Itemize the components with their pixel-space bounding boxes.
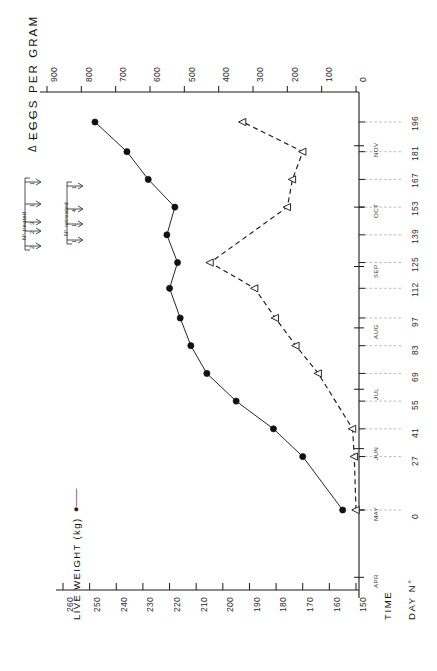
treated-count-1: 1 [30, 204, 35, 207]
weight-point [174, 259, 180, 265]
eggs-tick-900: 900 [50, 67, 59, 82]
eggs-point [239, 118, 246, 125]
day-tick-69: 69 [411, 372, 420, 382]
eggs-tick-marks [47, 86, 356, 92]
weight-tick-260: 260 [66, 597, 75, 612]
eggs-point [292, 342, 299, 349]
day-tick-0: 0 [411, 514, 420, 519]
month-tick-aug: AUG [373, 324, 379, 339]
treated-count-2: 3 [30, 222, 35, 225]
day-tick-139: 139 [411, 229, 420, 244]
month-tick-jun: JUN [373, 446, 379, 459]
eggs-point [348, 425, 355, 432]
weight-point [270, 426, 276, 432]
eggs-tick-200: 200 [291, 67, 300, 82]
eggs-tick-600: 600 [153, 67, 162, 82]
month-tick-apr: APR [373, 574, 379, 588]
weight-tick-marks [63, 583, 356, 590]
weight-point [145, 176, 151, 182]
weight-point [300, 453, 306, 459]
retreated-count-2: 1 [72, 224, 77, 227]
month-tick-sep: SEP [373, 264, 379, 278]
day-tick-181: 181 [411, 146, 420, 161]
eggs-point [206, 259, 213, 266]
retreated-label: N° retreated [64, 202, 70, 236]
weight-point [204, 370, 210, 376]
weight-point [340, 507, 346, 513]
weight-tick-250: 250 [93, 597, 102, 612]
eggs-tick-700: 700 [119, 67, 128, 82]
weight-tick-180: 180 [279, 597, 288, 612]
weight-tick-160: 160 [333, 597, 342, 612]
treated-count-3: 2 [30, 231, 35, 234]
eggs-point [299, 148, 306, 155]
eggs-point [283, 204, 290, 211]
weight-tick-230: 230 [146, 597, 155, 612]
weight-tick-170: 170 [306, 597, 315, 612]
day-tick-112: 112 [411, 283, 420, 297]
treated-label: N° treated [22, 212, 28, 240]
weight-point [164, 232, 170, 238]
retreated-count-1: 4 [72, 209, 77, 212]
eggs-tick-500: 500 [188, 67, 197, 82]
day-tick-97: 97 [411, 317, 420, 327]
day-tick-27: 27 [411, 455, 420, 465]
day-tick-196: 196 [411, 116, 420, 131]
eggs-point [314, 370, 321, 377]
weight-point [172, 204, 178, 210]
day-tick-55: 55 [411, 400, 420, 410]
weight-point [177, 315, 183, 321]
eggs-point [251, 285, 258, 292]
weight-series-markers [92, 119, 346, 513]
figure-canvas: EGGS PER GRAM Δ – – – LIVE WEIGHT (kg) ●… [0, 0, 437, 671]
day-tick-125: 125 [411, 256, 420, 271]
eggs-series-markers [206, 118, 359, 513]
weight-tick-150: 150 [359, 597, 368, 612]
month-tick-may: MAY [373, 507, 379, 521]
day-tick-167: 167 [411, 173, 420, 188]
weight-point [92, 119, 98, 125]
weight-series-line [95, 122, 343, 510]
weight-point [188, 343, 194, 349]
retreated-count-0: 1 [72, 186, 77, 189]
weight-point [233, 398, 239, 404]
day-gridlines [365, 122, 401, 510]
day-tick-marks [359, 122, 365, 510]
month-tick-oct: OCT [373, 204, 379, 218]
eggs-tick-400: 400 [222, 67, 231, 82]
retreated-count-3: 1 [72, 240, 77, 243]
day-tick-153: 153 [411, 201, 420, 216]
eggs-series-line [210, 122, 356, 510]
eggs-tick-100: 100 [325, 67, 334, 82]
eggs-tick-800: 800 [85, 67, 94, 82]
weight-tick-200: 200 [226, 597, 235, 612]
eggs-point [271, 314, 278, 321]
eggs-tick-300: 300 [256, 67, 265, 82]
treated-count-4: 2 [30, 246, 35, 249]
weight-tick-240: 240 [120, 597, 129, 612]
weight-tick-190: 190 [253, 597, 262, 612]
weight-point [124, 149, 130, 155]
month-tick-nov: NOV [373, 142, 379, 157]
month-tick-jul: JUL [373, 388, 379, 400]
day-tick-83: 83 [411, 345, 420, 355]
treated-count-0: 1 [30, 182, 35, 185]
day-tick-41: 41 [411, 428, 420, 438]
weight-tick-210: 210 [200, 597, 209, 612]
eggs-tick-0: 0 [359, 77, 368, 82]
weight-tick-220: 220 [173, 597, 182, 612]
weight-point [166, 285, 172, 291]
